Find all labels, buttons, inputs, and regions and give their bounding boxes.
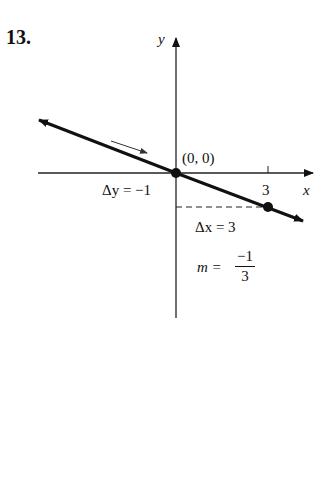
point-3-neg1 [263, 202, 273, 212]
graph [0, 0, 323, 499]
line-left-arrow [39, 120, 176, 173]
tick-label-3: 3 [262, 183, 270, 198]
line-right-arrow [176, 173, 303, 221]
slope-denominator: 3 [241, 267, 249, 284]
slope-fraction: −1 3 [235, 249, 255, 284]
origin-label: (0, 0) [182, 151, 215, 166]
delta-y-label: Δy = −1 [102, 183, 151, 198]
slope-numerator: −1 [235, 249, 255, 267]
slope-label: m = [197, 260, 222, 275]
delta-x-label: Δx = 3 [195, 220, 236, 235]
slope-lhs: m = [197, 259, 222, 275]
y-axis-label: y [158, 32, 165, 47]
point-origin [171, 168, 181, 178]
x-axis-label: x [303, 183, 310, 198]
